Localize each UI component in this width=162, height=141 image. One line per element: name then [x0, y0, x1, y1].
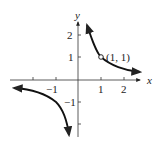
x-tick-label-2: 2: [121, 83, 127, 95]
x-tick-label-neg1: −1: [46, 83, 58, 95]
curve-left-branch: [14, 88, 69, 135]
x-tick-label-1: 1: [98, 83, 104, 95]
y-ticks: [78, 35, 81, 124]
curve-right-branch: [87, 25, 140, 72]
y-tick-label-neg1: −1: [64, 96, 76, 108]
function-graph: x y −1 1 2 2 1 −1 (1, 1): [0, 0, 162, 141]
point-annotation: (1, 1): [106, 51, 130, 64]
open-point-marker: [99, 55, 104, 60]
y-axis-label: y: [74, 9, 80, 21]
x-ticks: [33, 77, 124, 80]
y-tick-label-2: 2: [67, 29, 73, 41]
y-tick-label-1: 1: [68, 51, 74, 63]
x-axis-label: x: [146, 74, 152, 86]
